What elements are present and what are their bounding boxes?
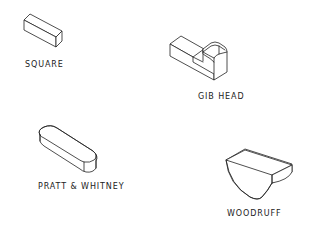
square-key-drawing [24,14,62,47]
woodruff-key-label: WOODRUFF [227,209,281,218]
diagram-canvas: SQUARE GIB HEAD PRATT & WHITNEY WOODRUFF [0,0,309,239]
gib-head-key-drawing [170,36,227,80]
pratt-whitney-key-drawing [39,126,97,172]
gib-head-key-label: GIB HEAD [198,92,245,101]
square-key-label: SQUARE [25,60,64,69]
pratt-whitney-key-label: PRATT & WHITNEY [38,182,124,191]
key-drawings [0,0,309,239]
woodruff-key-drawing [226,149,292,199]
